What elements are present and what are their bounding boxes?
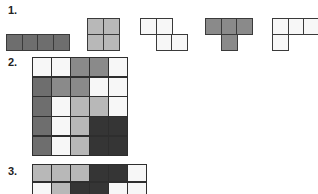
grid-cell [90,183,108,194]
piece-cell [272,34,289,51]
piece-cell [53,34,70,51]
grid-cell [109,97,127,115]
grid-cell [33,97,51,115]
grid-cell [71,183,89,194]
piece-cell [221,34,238,51]
grid-cell [109,78,127,96]
grid-cell [33,58,51,76]
piece-cell [103,34,120,51]
grid-cell [52,97,70,115]
grid-cell [109,58,127,76]
piece-cell [156,34,173,51]
piece-cell [87,18,104,35]
grid-cell [128,183,146,194]
grid-cell [52,78,70,96]
piece-cell [236,18,253,35]
grid-cell [33,117,51,135]
piece-cell [103,18,120,35]
grid-cell [128,165,146,181]
grid-cell [52,165,70,181]
grid-cell [109,165,127,181]
grid-cell [52,117,70,135]
grid-cell [33,137,51,155]
grid-cell [109,137,127,155]
grid-cell [90,137,108,155]
grid-cell [90,165,108,181]
grid-cell [71,97,89,115]
grid-cell [90,78,108,96]
piece-cell [140,18,157,35]
grid-cell [90,58,108,76]
piece-cell [272,18,289,35]
grid-section-3 [32,164,147,194]
section-3-label: 3. [8,166,17,177]
grid-cell [71,78,89,96]
grid-cell [90,97,108,115]
piece-cell [205,18,222,35]
piece-cell [37,34,54,51]
grid-cell [33,183,51,194]
grid-section-2 [32,57,128,156]
grid-cell [71,137,89,155]
piece-cell [22,34,39,51]
grid-cell [52,183,70,194]
grid-cell [90,117,108,135]
section-2-label: 2. [8,57,17,68]
piece-cell [6,34,23,51]
piece-cell [221,18,238,35]
piece-cell [171,34,188,51]
piece-cell [156,18,173,35]
grid-cell [71,58,89,76]
piece-cell [288,18,305,35]
grid-cell [71,117,89,135]
grid-cell [52,137,70,155]
grid-cell [33,165,51,181]
grid-cell [109,183,127,194]
piece-cell [87,34,104,51]
grid-cell [52,58,70,76]
piece-cell [303,18,318,35]
section-1-label: 1. [8,5,17,16]
grid-cell [71,165,89,181]
grid-cell [109,117,127,135]
grid-cell [33,78,51,96]
